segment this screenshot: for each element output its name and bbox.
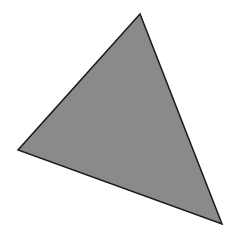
triangle-diagram — [0, 0, 237, 236]
gray-triangle — [18, 14, 222, 224]
diagram-canvas — [0, 0, 237, 236]
